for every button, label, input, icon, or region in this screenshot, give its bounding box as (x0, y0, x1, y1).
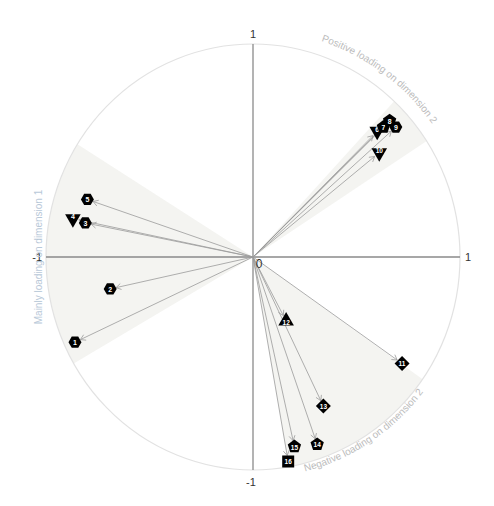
dimension-1-sector (46, 144, 253, 363)
plot-area: 12345678910111213141516 1 -1 -1 1 0 Main… (0, 0, 494, 506)
marker-label: 5 (85, 196, 89, 203)
annotation-dimension-1: Mainly loading on dimension 1 (33, 189, 44, 324)
marker-label: 7 (381, 124, 385, 131)
marker-label: 3 (83, 220, 87, 227)
marker-label: 11 (399, 360, 406, 367)
marker-label: 10 (376, 147, 384, 154)
marker-label: 8 (388, 118, 392, 125)
loading-arrow-10 (253, 156, 375, 257)
tick-label-top: 1 (250, 28, 256, 40)
marker-label: 15 (291, 444, 299, 451)
loading-arrow-8 (253, 125, 385, 257)
marker-label: 16 (285, 458, 293, 465)
tick-label-bottom: -1 (246, 476, 256, 488)
marker-label: 1 (73, 339, 77, 346)
marker-label: 12 (283, 319, 291, 326)
loading-arrow-9 (253, 131, 391, 257)
marker-label: 4 (71, 213, 75, 220)
tick-label-right: 1 (465, 251, 471, 263)
marker-label: 13 (320, 403, 328, 410)
origin-label: 0 (256, 257, 263, 271)
variable-marker-16: 16 (282, 455, 294, 467)
marker-label: 9 (394, 124, 398, 131)
correlation-circle-chart: 12345678910111213141516 1 -1 -1 1 0 Main… (0, 0, 494, 506)
annotation-positive-dimension-2: Positive loading on dimension 2 (321, 33, 440, 126)
marker-label: 2 (108, 286, 112, 293)
marker-label: 14 (314, 441, 322, 448)
shaded-sectors (46, 101, 427, 467)
